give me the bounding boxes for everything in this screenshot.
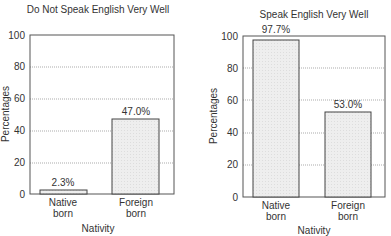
y-tick-0: 0 bbox=[232, 192, 238, 203]
bar-value-label: 47.0% bbox=[122, 106, 150, 117]
x-category-label: Native bbox=[262, 200, 291, 211]
bar-foreign-born bbox=[112, 119, 159, 194]
bar-foreign-born bbox=[325, 112, 371, 197]
x-category-label: Foreign bbox=[331, 200, 365, 211]
x-category-label: born bbox=[53, 208, 73, 219]
x-axis-label: Nativity bbox=[82, 223, 115, 234]
x-category-label: Foreign bbox=[119, 197, 153, 208]
x-category-label: born bbox=[126, 208, 146, 219]
bar-native-born bbox=[40, 190, 87, 194]
x-category-label: born bbox=[338, 211, 358, 222]
y-tick-60: 60 bbox=[14, 93, 26, 104]
chart-title: Speak English Very Well bbox=[260, 9, 369, 20]
y-axis-label: Percentages bbox=[208, 88, 219, 144]
y-axis-label: Percentages bbox=[0, 86, 11, 142]
charts-canvas: Do Not Speak English Very Well 0 20 40 6… bbox=[0, 0, 391, 236]
y-tick-0: 0 bbox=[19, 189, 25, 200]
y-tick-80: 80 bbox=[227, 63, 239, 74]
y-tick-40: 40 bbox=[227, 127, 239, 138]
bar-value-label: 53.0% bbox=[334, 99, 362, 110]
y-tick-100: 100 bbox=[8, 30, 25, 41]
y-tick-80: 80 bbox=[14, 61, 26, 72]
chart-do-not-speak-english: Do Not Speak English Very Well 0 20 40 6… bbox=[0, 4, 174, 234]
y-tick-40: 40 bbox=[14, 125, 26, 136]
plot-area: 0 20 40 60 80 100 Percentages 2.3% 47.0%… bbox=[0, 30, 174, 234]
y-tick-100: 100 bbox=[221, 31, 238, 42]
y-tick-60: 60 bbox=[227, 95, 239, 106]
x-axis-label: Nativity bbox=[298, 225, 331, 236]
x-category-label: born bbox=[266, 211, 286, 222]
y-tick-20: 20 bbox=[14, 157, 26, 168]
bar-native-born bbox=[253, 40, 299, 197]
plot-area: 0 20 40 60 80 100 Percentages 97.7% 53.0… bbox=[208, 24, 385, 236]
bar-value-label: 2.3% bbox=[52, 177, 75, 188]
x-category-label: Native bbox=[49, 197, 78, 208]
y-axis-ticks: 0 20 40 60 80 100 bbox=[221, 31, 238, 203]
chart-speak-english-very-well: Speak English Very Well 0 20 40 60 80 10… bbox=[208, 9, 385, 236]
y-tick-20: 20 bbox=[227, 159, 239, 170]
bar-value-label: 97.7% bbox=[262, 24, 290, 35]
chart-title: Do Not Speak English Very Well bbox=[27, 4, 170, 15]
